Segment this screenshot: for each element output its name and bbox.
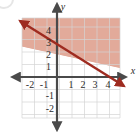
x-tick-neg2: -2 [26,79,34,90]
y-tick-neg1: -1 [46,90,54,101]
x-tick-4: 4 [106,79,111,90]
solution-region-shading [22,18,120,118]
y-tick-2: 2 [46,49,51,60]
x-axis-label: x [130,65,136,76]
y-tick-neg2: -2 [46,103,54,114]
x-tick-3: 3 [93,79,98,90]
y-tick-3: 3 [46,37,51,48]
y-tick-1: 1 [46,61,51,72]
graph-figure: -2 -1 1 2 3 4 4 3 2 1 -1 -2 y x [0,0,136,136]
x-tick-neg1: -1 [40,79,48,90]
y-tick-4: 4 [46,25,51,36]
x-tick-1: 1 [69,79,74,90]
coordinate-plane: -2 -1 1 2 3 4 4 3 2 1 -1 -2 y x [0,0,136,136]
x-tick-2: 2 [81,79,86,90]
y-axis-label: y [60,1,66,12]
